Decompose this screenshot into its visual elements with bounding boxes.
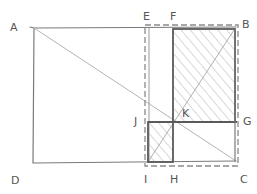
label-j: J	[134, 116, 137, 127]
label-b: B	[242, 19, 250, 30]
label-e: E	[143, 11, 150, 22]
label-f: F	[170, 11, 176, 22]
label-a: A	[10, 22, 18, 33]
label-h: H	[170, 174, 178, 185]
label-k: K	[182, 108, 189, 119]
geometry-diagram	[0, 0, 257, 194]
label-c: C	[240, 174, 248, 185]
label-d: D	[11, 175, 19, 186]
label-i: I	[144, 174, 147, 185]
label-g: G	[243, 116, 252, 127]
